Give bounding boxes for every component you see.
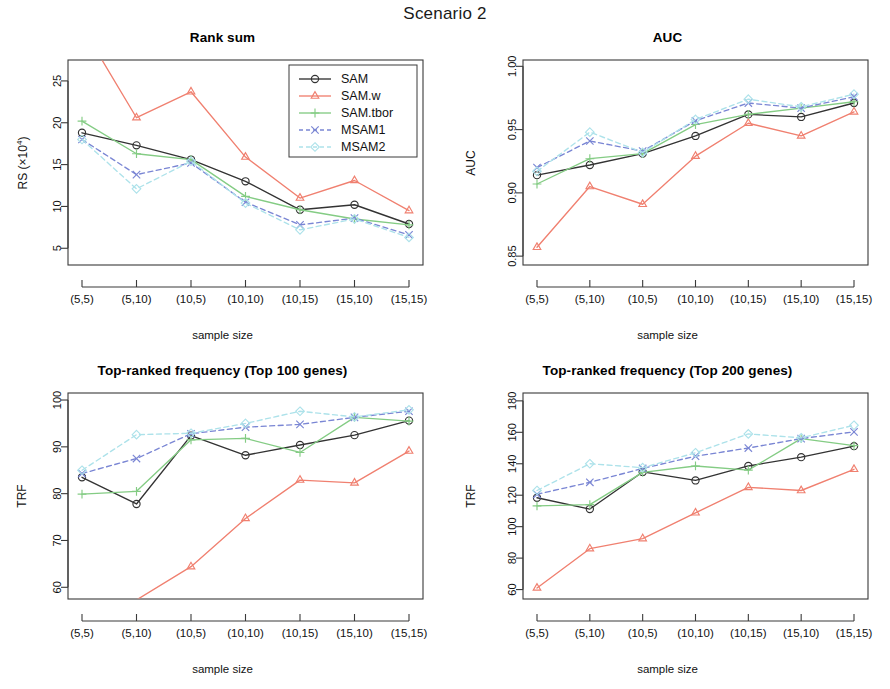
x-tick-label: (10,10) — [677, 293, 714, 305]
figure-main-title: Scenario 2 — [0, 4, 890, 24]
data-point-sam-tbor — [78, 117, 87, 126]
legend: SAMSAM.wSAM.tborMSAM1MSAM2 — [289, 65, 417, 157]
plot-area-rank-sum: 510152025(5,5)(5,10)(10,5)(10,10)(10,15)… — [0, 24, 445, 355]
x-tick-label: (10,15) — [282, 627, 319, 639]
data-point-sam-w — [405, 447, 413, 454]
x-tick-label: (10,10) — [227, 293, 264, 305]
y-tick-label: 60 — [506, 583, 518, 595]
data-point-sam-w — [745, 483, 753, 490]
plot-area-trf-top100: 60708090100(5,5)(5,10)(10,5)(10,10)(10,1… — [0, 357, 445, 689]
series-line-sam-tbor — [537, 102, 854, 184]
y-tick-label: 140 — [506, 455, 518, 473]
data-point-sam-tbor — [78, 490, 87, 499]
figure-canvas: Scenario 2 Rank sumsample sizeRS (×104)5… — [0, 0, 890, 689]
y-tick-label: 60 — [51, 581, 63, 593]
x-tick-label: (5,10) — [121, 293, 151, 305]
y-tick-label: 100 — [51, 391, 63, 409]
x-tick-label: (5,5) — [70, 293, 94, 305]
y-tick-label: 20 — [51, 117, 63, 129]
plot-area-trf-top200: 6080100120140160180(5,5)(5,10)(10,5)(10,… — [445, 357, 890, 689]
x-tick-label: (15,15) — [836, 627, 873, 639]
x-tick-label: (10,15) — [730, 627, 767, 639]
x-tick-label: (15,10) — [783, 293, 820, 305]
x-tick-label: (15,10) — [783, 627, 820, 639]
x-tick-label: (5,10) — [575, 627, 605, 639]
data-point-sam-tbor — [533, 180, 542, 189]
x-tick-label: (10,15) — [282, 293, 319, 305]
panel-auc: AUCsample sizeAUC0.850.900.951.00(5,5)(5… — [445, 24, 890, 355]
x-tick-label: (5,5) — [70, 627, 94, 639]
panel-rank-sum: Rank sumsample sizeRS (×104)510152025(5,… — [0, 24, 445, 355]
y-tick-label: 10 — [51, 200, 63, 212]
x-tick-label: (15,15) — [391, 293, 428, 305]
data-point-sam-w — [533, 584, 541, 591]
data-point-sam-w — [351, 176, 359, 183]
data-point-sam-tbor — [132, 149, 141, 158]
data-point-msam1 — [133, 455, 140, 462]
data-point-sam-tbor — [533, 502, 542, 511]
series-group — [533, 90, 859, 250]
y-tick-label: 0.90 — [506, 182, 518, 203]
y-tick-label: 0.85 — [506, 245, 518, 266]
y-tick-label: 5 — [51, 245, 63, 251]
x-tick-label: (15,10) — [336, 293, 373, 305]
y-tick-label: 25 — [51, 75, 63, 87]
data-point-sam-tbor — [296, 205, 305, 214]
panel-trf-top100: Top-ranked frequency (Top 100 genes)samp… — [0, 357, 445, 689]
x-tick-label: (10,5) — [628, 293, 658, 305]
y-tick-label: 120 — [506, 486, 518, 504]
legend-label-msam2: MSAM2 — [341, 140, 386, 154]
x-tick-label: (15,15) — [836, 293, 873, 305]
x-tick-label: (10,5) — [176, 627, 206, 639]
data-point-sam-tbor — [585, 154, 594, 163]
data-point-msam1 — [133, 171, 140, 178]
y-tick-label: 15 — [51, 158, 63, 170]
data-point-sam-tbor — [744, 110, 753, 119]
x-tick-label: (5,5) — [525, 627, 549, 639]
series-group — [533, 421, 859, 590]
data-point-sam-w — [187, 562, 195, 569]
legend-label-msam1: MSAM1 — [341, 123, 386, 137]
x-tick-label: (10,5) — [628, 627, 658, 639]
x-tick-label: (10,15) — [730, 293, 767, 305]
data-point-msam1 — [78, 470, 85, 477]
legend-label-sam-w: SAM.w — [341, 89, 382, 103]
panel-trf-top200: Top-ranked frequency (Top 200 genes)samp… — [445, 357, 890, 689]
series-line-sam-w — [537, 469, 854, 588]
x-tick-label: (15,15) — [391, 627, 428, 639]
x-tick-label: (5,10) — [575, 293, 605, 305]
data-point-sam-w — [187, 87, 195, 94]
x-tick-label: (10,5) — [176, 293, 206, 305]
y-tick-label: 180 — [506, 392, 518, 410]
y-tick-label: 70 — [51, 534, 63, 546]
y-tick-label: 80 — [51, 488, 63, 500]
y-tick-label: 90 — [51, 441, 63, 453]
x-tick-label: (10,10) — [227, 627, 264, 639]
x-tick-label: (5,5) — [525, 293, 549, 305]
x-tick-label: (5,10) — [121, 627, 151, 639]
data-point-sam-w — [850, 465, 858, 472]
y-tick-label: 0.95 — [506, 119, 518, 140]
x-tick-label: (10,10) — [677, 627, 714, 639]
legend-label-sam-tbor: SAM.tbor — [341, 106, 393, 120]
y-tick-label: 160 — [506, 423, 518, 441]
y-tick-label: 80 — [506, 552, 518, 564]
legend-label-sam: SAM — [341, 72, 368, 86]
data-point-sam-w — [745, 119, 753, 126]
data-point-sam-w — [586, 182, 594, 189]
x-tick-label: (15,10) — [336, 627, 373, 639]
data-point-sam-w — [850, 107, 858, 114]
data-point-sam-tbor — [296, 448, 305, 457]
data-point-sam-w — [296, 476, 304, 483]
data-point-sam-tbor — [241, 434, 250, 443]
plot-area-auc: 0.850.900.951.00(5,5)(5,10)(10,5)(10,10)… — [445, 24, 890, 355]
y-tick-label: 1.00 — [506, 56, 518, 77]
y-tick-label: 100 — [506, 517, 518, 535]
data-point-sam-tbor — [691, 462, 700, 471]
series-group — [78, 406, 414, 625]
